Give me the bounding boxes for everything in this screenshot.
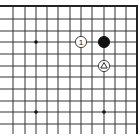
move-number-label: 1 [79,38,84,47]
go-board-diagram: 1 [0,0,140,137]
white-stone-move-1: 1 [75,36,86,47]
star-point [34,40,38,44]
grid-lines [0,6,137,134]
star-point [34,110,38,114]
star-point [102,110,106,114]
board-edges [0,5,138,134]
black-stone [98,36,109,47]
white-stone-triangle [98,60,109,71]
black-stone-icon [98,36,109,47]
